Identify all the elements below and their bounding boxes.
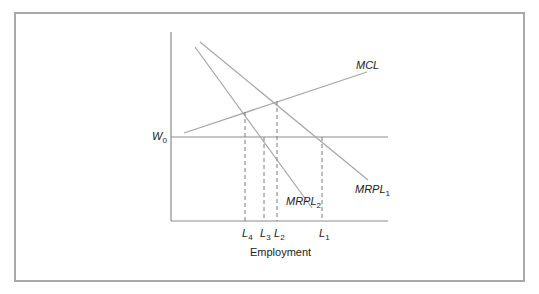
label-l3: L3 — [260, 228, 271, 242]
label-l2-sub: 2 — [280, 233, 284, 242]
label-l4-sub: 4 — [248, 233, 252, 242]
label-mrpl2-sub: 2 — [317, 201, 321, 210]
x-axis-title: Employment — [250, 247, 311, 258]
label-l2: L2 — [274, 228, 285, 242]
label-mcl-main: MCL — [356, 59, 379, 71]
label-mcl: MCL — [356, 60, 379, 71]
label-mrpl1: MRPL1 — [355, 184, 390, 198]
mrpl1-curve — [200, 42, 368, 180]
mrpl2-curve — [195, 47, 312, 208]
mcl-curve — [184, 72, 367, 133]
label-mrpl1-sub: 1 — [386, 189, 390, 198]
label-l1: L1 — [319, 228, 330, 242]
label-w0: W0 — [152, 131, 167, 145]
label-l1-sub: 1 — [325, 233, 329, 242]
label-w0-main: W — [152, 130, 162, 142]
label-mrpl2: MRPL2 — [286, 196, 321, 210]
label-mrpl2-main: MRPL — [286, 195, 317, 207]
label-l3-sub: 3 — [266, 233, 270, 242]
label-mrpl1-main: MRPL — [355, 183, 386, 195]
label-w0-sub: 0 — [162, 136, 166, 145]
label-l4: L4 — [242, 228, 253, 242]
